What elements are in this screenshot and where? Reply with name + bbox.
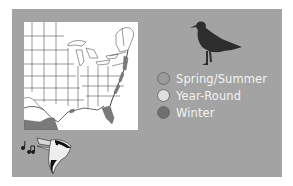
songbird-head-icon bbox=[15, 130, 77, 175]
legend-label: Spring/Summer bbox=[176, 72, 267, 86]
legend-label: Year-Round bbox=[176, 89, 241, 103]
us-map-outline bbox=[24, 22, 138, 130]
legend-label: Winter bbox=[176, 106, 215, 120]
year-round-swatch-icon bbox=[157, 89, 170, 102]
legend-item-spring-summer: Spring/Summer bbox=[157, 70, 267, 87]
winter-swatch-icon bbox=[157, 106, 170, 119]
gull-silhouette-icon bbox=[184, 17, 244, 72]
legend-item-year-round: Year-Round bbox=[157, 87, 267, 104]
legend: Spring/Summer Year-Round Winter bbox=[157, 70, 267, 121]
spring-summer-swatch-icon bbox=[157, 72, 170, 85]
range-map-panel: Spring/Summer Year-Round Winter bbox=[12, 9, 282, 177]
music-notes-icon bbox=[21, 141, 34, 154]
range-map bbox=[24, 22, 138, 130]
legend-item-winter: Winter bbox=[157, 104, 267, 121]
